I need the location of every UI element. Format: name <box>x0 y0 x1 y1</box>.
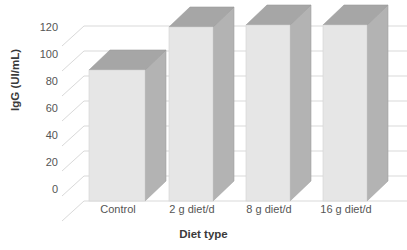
bar-16g-diet <box>323 5 388 201</box>
bar-side-face <box>213 7 234 201</box>
bar-front-face <box>246 25 290 201</box>
bar-side-face <box>145 50 166 201</box>
bar-8g-diet <box>246 5 311 201</box>
bar-side-face <box>290 5 311 201</box>
x-tick-label-16g: 16 g diet/d <box>306 203 386 215</box>
bar-chart: IgG (UI/mL) 0 20 40 60 80 100 120 <box>0 0 407 250</box>
bar-control <box>89 50 166 201</box>
x-tick-label-8g: 8 g diet/d <box>229 203 309 215</box>
bar-front-face <box>89 70 145 201</box>
bar-2g-diet <box>169 7 234 201</box>
bar-side-face <box>367 5 388 201</box>
x-tick-label-2g: 2 g diet/d <box>152 203 232 215</box>
x-axis-title: Diet type <box>0 228 407 240</box>
x-axis-tick-labels: Control 2 g diet/d 8 g diet/d 16 g diet/… <box>0 203 407 223</box>
bar-front-face <box>323 25 367 201</box>
bar-front-face <box>169 27 213 201</box>
x-tick-label-control: Control <box>78 203 158 215</box>
